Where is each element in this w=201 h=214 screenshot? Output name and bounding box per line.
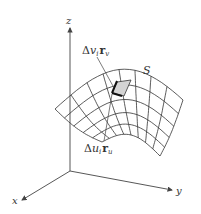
y-axis-label: y	[175, 185, 182, 196]
highlighted-patch	[112, 80, 131, 96]
y-axis	[70, 171, 172, 190]
z-axis-label: z	[65, 15, 72, 26]
annotation-delta-v-rv: Δvirv	[82, 44, 109, 58]
annotation-delta-u-ru: Δuiru	[84, 142, 113, 156]
leader-bottom	[104, 94, 112, 141]
grid-line-v	[135, 70, 138, 138]
x-axis	[22, 171, 70, 200]
surface-diagram: z y x S Δvirv Δuiru	[0, 0, 201, 214]
grid-line-v	[160, 100, 183, 156]
surface-label: S	[143, 64, 151, 77]
x-axis-label: x	[12, 195, 18, 206]
grid-line-v	[119, 70, 131, 136]
grid-line-u	[83, 113, 169, 138]
